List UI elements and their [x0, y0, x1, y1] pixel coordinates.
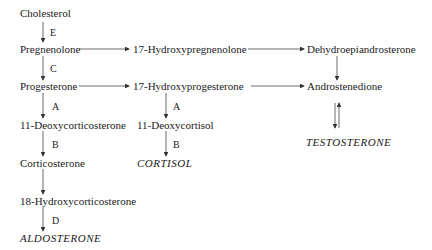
node-aldosterone: ALDOSTERONE: [20, 232, 101, 245]
enzyme-label-b-cortisol: B: [173, 139, 180, 151]
node-pregnenolone: Pregnenolone: [20, 43, 80, 56]
enzyme-label-c: C: [50, 63, 57, 75]
node-cortisol: CORTISOL: [137, 157, 192, 170]
node-corticosterone: Corticosterone: [20, 157, 85, 170]
node-cholesterol: Cholesterol: [20, 7, 71, 20]
node-11-deoxycortisol: 11-Deoxycortisol: [137, 119, 214, 132]
node-17-hydroxypregnenolone: 17-Hydroxypregnenolone: [133, 43, 247, 56]
node-androstenedione: Androstenedione: [307, 80, 382, 93]
node-11-deoxycorticosterone: 11-Deoxycorticosterone: [20, 119, 126, 132]
node-18-hydroxycorticosterone: 18-Hydroxycorticosterone: [20, 195, 136, 208]
enzyme-label-d: D: [52, 215, 59, 227]
steroid-pathway-diagram: Cholesterol E Pregnenolone 17-Hydroxypre…: [0, 0, 432, 250]
enzyme-label-b: B: [52, 139, 59, 151]
node-17-hydroxyprogesterone: 17-Hydroxyprogesterone: [133, 80, 244, 93]
enzyme-label-a: A: [52, 101, 59, 113]
node-testosterone: TESTOSTERONE: [306, 136, 391, 149]
node-progesterone: Progesterone: [20, 80, 77, 93]
enzyme-label-e: E: [50, 27, 56, 39]
enzyme-label-a-cortisol: A: [173, 101, 180, 113]
node-dehydroepiandrosterone: Dehydroepiandrosterone: [307, 43, 416, 56]
